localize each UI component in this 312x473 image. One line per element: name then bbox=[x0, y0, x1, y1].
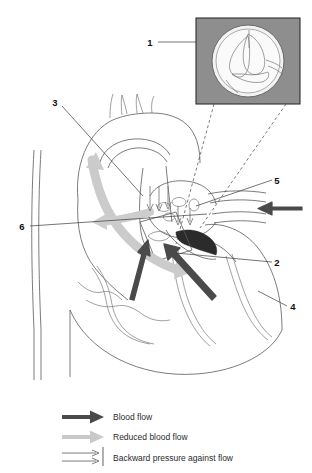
callout-number-1: 1 bbox=[147, 37, 153, 48]
legend-label-blood-flow: Blood flow bbox=[113, 412, 153, 422]
valve-cross-section-inset bbox=[196, 18, 300, 104]
callout-number-2: 2 bbox=[274, 257, 279, 268]
legend-label-reduced-blood-flow: Reduced blood flow bbox=[113, 432, 189, 442]
legend-label-backward-pressure: Backward pressure against flow bbox=[113, 453, 234, 463]
callout-number-3: 3 bbox=[52, 97, 57, 108]
callout-number-6: 6 bbox=[19, 221, 24, 232]
heart-diagram-figure: 1 2 3 4 5 6 Blood flow Reduced blood flo… bbox=[0, 0, 312, 473]
callout-number-4: 4 bbox=[290, 301, 296, 312]
inset-valve-inner-circle bbox=[216, 29, 280, 93]
callout-number-5: 5 bbox=[274, 175, 280, 186]
